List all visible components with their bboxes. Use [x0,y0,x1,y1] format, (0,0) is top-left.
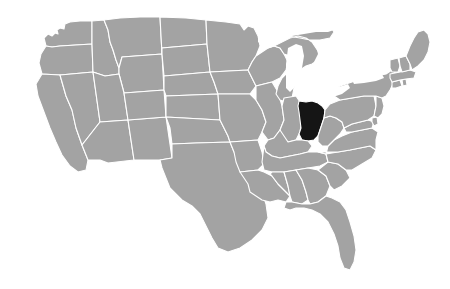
state-SD[interactable] [162,44,210,76]
us-states-map [0,0,450,289]
state-VT[interactable] [390,58,400,72]
state-OR[interactable] [39,44,93,75]
state-NE[interactable] [164,72,218,96]
state-WY[interactable] [119,54,164,93]
state-NJ[interactable] [374,96,384,118]
state-ME[interactable] [406,30,430,70]
state-KS[interactable] [166,94,220,120]
state-IA[interactable] [210,70,256,94]
state-NY[interactable] [332,70,396,100]
state-NM[interactable] [128,117,172,160]
state-FL[interactable] [284,196,356,270]
us-map-container [0,0,450,289]
lake-michigan [286,44,304,92]
state-DE[interactable] [372,117,378,126]
state-CO[interactable] [124,90,166,120]
lake-huron [312,40,342,74]
state-WA[interactable] [44,21,92,47]
